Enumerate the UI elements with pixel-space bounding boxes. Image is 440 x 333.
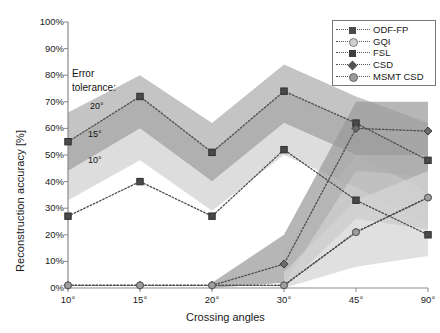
y-tick-label: 50%: [28, 149, 64, 160]
x-axis-label: Crossing angles: [186, 311, 265, 323]
band-label-20deg: 20°: [90, 101, 104, 111]
y-tick-label: 30%: [28, 202, 64, 213]
y-axis-label: Reconstruction accuracy [%]: [14, 130, 26, 272]
legend-marker-square-icon: [336, 47, 370, 58]
band-label-15deg: 15°: [88, 129, 102, 139]
error-tolerance-bands: [68, 65, 428, 288]
legend-marker-diamond-icon: [336, 59, 370, 70]
legend-marker-hexagon-icon: [336, 71, 370, 82]
y-tick-label: 80%: [28, 69, 64, 80]
legend-item-fsl[interactable]: FSL: [336, 47, 431, 59]
legend-label: CSD: [370, 59, 393, 70]
legend-item-odf-fp[interactable]: ODF-FP: [336, 24, 431, 36]
legend-marker-circle-icon: [336, 36, 370, 47]
x-tick-label: 15°: [124, 294, 156, 305]
legend-label: MSMT CSD: [370, 71, 424, 82]
legend-item-csd[interactable]: CSD: [336, 59, 431, 71]
band-label-10deg: 10°: [88, 155, 102, 165]
y-tick-label: 20%: [28, 229, 64, 240]
legend-item-msmt-csd[interactable]: MSMT CSD: [336, 70, 431, 82]
y-tick-label: 70%: [28, 96, 64, 107]
legend-label: FSL: [370, 47, 390, 58]
error-tolerance-label-line1: Error: [72, 68, 94, 79]
y-tick-label: 100%: [28, 16, 64, 27]
legend-label: GQI: [370, 36, 390, 47]
legend-label: ODF-FP: [370, 24, 408, 35]
legend-marker-square-icon: [336, 24, 370, 35]
x-tick-label: 30°: [268, 294, 300, 305]
x-tick-label: 20°: [196, 294, 228, 305]
reconstruction-accuracy-chart: Reconstruction accuracy [%] Crossing ang…: [0, 0, 440, 333]
y-tick-label: 0%: [28, 282, 64, 293]
y-tick-label: 60%: [28, 122, 64, 133]
x-tick-label: 10°: [52, 294, 84, 305]
legend-item-gqi[interactable]: GQI: [336, 36, 431, 48]
y-tick-label: 90%: [28, 43, 64, 54]
x-tick-label: 90°: [412, 294, 440, 305]
y-tick-label: 40%: [28, 176, 64, 187]
legend: ODF-FP GQI FSL CSD MSMT CSD: [332, 20, 436, 86]
y-tick-label: 10%: [28, 255, 64, 266]
error-tolerance-label-line2: tolerance:: [72, 82, 116, 93]
x-tick-label: 45°: [340, 294, 372, 305]
